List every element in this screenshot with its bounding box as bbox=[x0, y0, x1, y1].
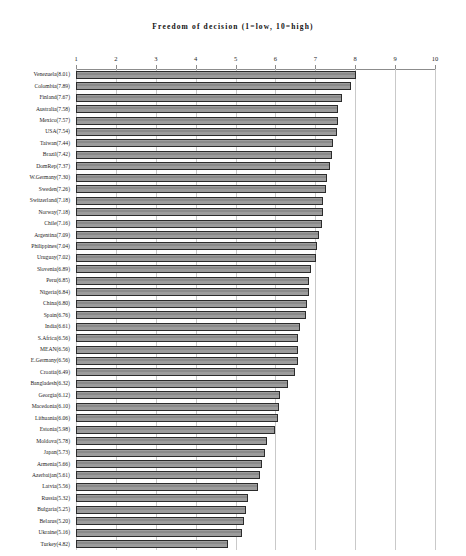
category-label: W.Germany(7.30) bbox=[30, 173, 71, 181]
category-label: Moldova(5.78) bbox=[36, 437, 70, 445]
category-label: Nigeria(6.84) bbox=[40, 288, 70, 296]
bar-row bbox=[76, 403, 435, 411]
bar-row bbox=[76, 231, 435, 239]
category-label: Bulgaria(5.25) bbox=[37, 505, 70, 513]
bar bbox=[76, 265, 311, 273]
bar bbox=[76, 449, 265, 457]
bar bbox=[76, 277, 309, 285]
category-label: Mexico(7.57) bbox=[39, 116, 70, 124]
bar bbox=[76, 105, 338, 113]
category-label: Taiwan(7.44) bbox=[40, 139, 70, 147]
category-label: Bangladesh(6.32) bbox=[30, 379, 70, 387]
bar bbox=[76, 414, 278, 422]
bar bbox=[76, 174, 327, 182]
bar-row bbox=[76, 208, 435, 216]
gridline bbox=[435, 69, 436, 550]
bar bbox=[76, 494, 248, 502]
bar bbox=[76, 323, 300, 331]
category-label: Ukraine(5.16) bbox=[38, 528, 70, 536]
bar-row bbox=[76, 242, 435, 250]
bar bbox=[76, 346, 298, 354]
category-label: Turkey(4.82) bbox=[41, 540, 70, 548]
bar-row bbox=[76, 517, 435, 525]
bar-row bbox=[76, 529, 435, 537]
bar-row bbox=[76, 483, 435, 491]
category-label: USA(7.54) bbox=[45, 127, 70, 135]
bar bbox=[76, 334, 298, 342]
category-label: Slovenia(6.89) bbox=[37, 265, 70, 273]
category-label: Philippines(7.04) bbox=[31, 242, 70, 250]
category-label: Azerbaijan(5.61) bbox=[32, 471, 70, 479]
bar-row bbox=[76, 368, 435, 376]
category-label: Armenia(5.66) bbox=[37, 460, 70, 468]
x-tick-label: 2 bbox=[114, 55, 117, 62]
bar-row bbox=[76, 380, 435, 388]
bar-row bbox=[76, 494, 435, 502]
bar-row bbox=[76, 254, 435, 262]
bar bbox=[76, 357, 298, 365]
x-tick-label: 7 bbox=[314, 55, 317, 62]
bar-row bbox=[76, 460, 435, 468]
bar-row bbox=[76, 94, 435, 102]
category-label: Sweden(7.26) bbox=[39, 185, 70, 193]
bar bbox=[76, 540, 228, 548]
x-tick-label: 6 bbox=[274, 55, 277, 62]
category-label: Norway(7.18) bbox=[38, 208, 70, 216]
category-label: S.Africa(6.56) bbox=[38, 334, 70, 342]
bar-row bbox=[76, 139, 435, 147]
bar bbox=[76, 460, 262, 468]
bar-row bbox=[76, 449, 435, 457]
bar-row bbox=[76, 71, 435, 79]
bar-row bbox=[76, 151, 435, 159]
bar bbox=[76, 220, 322, 228]
x-tick-label: 1 bbox=[74, 55, 77, 62]
bar-row bbox=[76, 300, 435, 308]
bar-row bbox=[76, 426, 435, 434]
bar-row bbox=[76, 346, 435, 354]
bar-chart-figure: Freedom of decision (1=low, 10=high) 123… bbox=[0, 0, 466, 556]
bar bbox=[76, 391, 280, 399]
category-label: Peru(6.85) bbox=[46, 276, 70, 284]
bar-row bbox=[76, 220, 435, 228]
category-label: Chile(7.16) bbox=[44, 219, 70, 227]
category-label: MEAN(6.56) bbox=[40, 345, 70, 353]
bar-row bbox=[76, 540, 435, 548]
x-tick-label: 9 bbox=[393, 55, 396, 62]
bar bbox=[76, 151, 332, 159]
bar bbox=[76, 117, 338, 125]
bar-row bbox=[76, 323, 435, 331]
bar bbox=[76, 231, 319, 239]
bar-row bbox=[76, 288, 435, 296]
category-label: Australia(7.58) bbox=[36, 105, 70, 113]
bar bbox=[76, 71, 356, 79]
bar-row bbox=[76, 437, 435, 445]
bar-row bbox=[76, 174, 435, 182]
x-tick-label: 8 bbox=[354, 55, 357, 62]
category-label: Croatia(6.49) bbox=[40, 368, 70, 376]
x-tick-label: 3 bbox=[154, 55, 157, 62]
bar-row bbox=[76, 162, 435, 170]
bar bbox=[76, 517, 244, 525]
category-axis-labels: Venezuela(8.01)Colombia(7.89)Finland(7.6… bbox=[0, 69, 73, 550]
category-label: China(6.80) bbox=[43, 299, 70, 307]
bar-row bbox=[76, 357, 435, 365]
bar-row bbox=[76, 334, 435, 342]
category-label: Belarus(5.20) bbox=[39, 517, 70, 525]
bar bbox=[76, 208, 323, 216]
bar bbox=[76, 197, 323, 205]
bar-row bbox=[76, 82, 435, 90]
x-tick-label: 10 bbox=[432, 55, 439, 62]
bar bbox=[76, 506, 246, 514]
bar bbox=[76, 139, 333, 147]
bar-row bbox=[76, 265, 435, 273]
bar bbox=[76, 185, 326, 193]
category-label: Venezuela(8.01) bbox=[34, 70, 71, 78]
category-label: Uruguay(7.02) bbox=[37, 253, 70, 261]
bar-row bbox=[76, 197, 435, 205]
bar bbox=[76, 288, 309, 296]
bar-row bbox=[76, 414, 435, 422]
bar bbox=[76, 368, 295, 376]
category-label: Lithuania(6.06) bbox=[35, 414, 70, 422]
bar bbox=[76, 426, 275, 434]
category-label: Finland(7.67) bbox=[39, 93, 70, 101]
